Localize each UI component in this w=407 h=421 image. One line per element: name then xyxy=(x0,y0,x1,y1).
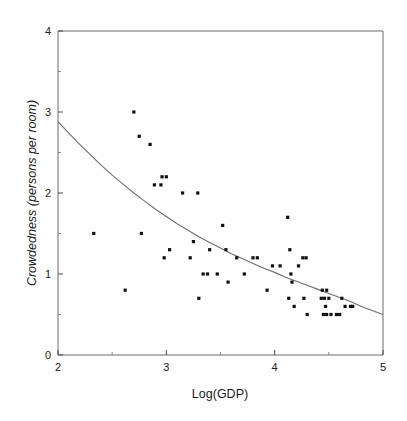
data-point xyxy=(235,256,238,259)
fit-curve xyxy=(58,122,383,315)
data-point xyxy=(197,297,200,300)
data-point xyxy=(290,281,293,284)
data-point xyxy=(216,272,219,275)
data-point xyxy=(196,191,199,194)
y-tick-label: 0 xyxy=(45,349,51,361)
y-tick-label: 3 xyxy=(45,106,51,118)
data-point xyxy=(278,264,281,267)
y-tick-labels: 01234 xyxy=(45,25,51,361)
data-point xyxy=(329,313,332,316)
data-point xyxy=(202,272,205,275)
data-point xyxy=(340,297,343,300)
data-point xyxy=(325,313,328,316)
x-tick-label: 5 xyxy=(380,361,386,373)
y-tick-label: 1 xyxy=(45,268,51,280)
data-point xyxy=(343,305,346,308)
x-axis-title: Log(GDP) xyxy=(192,387,248,401)
x-tick-label: 4 xyxy=(272,361,278,373)
axis-ticks xyxy=(58,31,383,355)
data-point xyxy=(92,232,95,235)
plot-frame xyxy=(58,31,383,355)
data-point xyxy=(301,256,304,259)
x-tick-label: 3 xyxy=(163,361,169,373)
data-point xyxy=(224,248,227,251)
data-point xyxy=(271,264,274,267)
data-point xyxy=(192,240,195,243)
data-point xyxy=(297,264,300,267)
data-point xyxy=(140,232,143,235)
data-point xyxy=(322,313,325,316)
data-point xyxy=(293,305,296,308)
data-point xyxy=(288,248,291,251)
x-tick-label: 2 xyxy=(55,361,61,373)
data-point xyxy=(302,297,305,300)
data-point xyxy=(181,191,184,194)
data-point xyxy=(327,297,330,300)
data-point xyxy=(153,183,156,186)
y-tick-label: 2 xyxy=(45,187,51,199)
data-points xyxy=(92,110,354,316)
data-point xyxy=(351,305,354,308)
data-point xyxy=(306,313,309,316)
data-point xyxy=(132,110,135,113)
data-point xyxy=(287,297,290,300)
data-point xyxy=(148,143,151,146)
data-point xyxy=(189,256,192,259)
data-point xyxy=(304,256,307,259)
data-point xyxy=(321,289,324,292)
data-point xyxy=(256,256,259,259)
data-point xyxy=(206,272,209,275)
data-point xyxy=(138,135,141,138)
data-point xyxy=(338,313,341,316)
data-point xyxy=(286,216,289,219)
data-point xyxy=(163,256,166,259)
x-tick-labels: 2345 xyxy=(55,361,386,373)
data-point xyxy=(124,289,127,292)
data-point xyxy=(159,183,162,186)
data-point xyxy=(160,175,163,178)
data-point xyxy=(208,248,211,251)
y-tick-label: 4 xyxy=(45,25,51,37)
data-point xyxy=(324,305,327,308)
data-point xyxy=(168,248,171,251)
data-point xyxy=(325,289,328,292)
data-point xyxy=(165,175,168,178)
chart-figure: 2345 01234 Log(GDP) Crowdedness (persons… xyxy=(0,0,407,421)
data-point xyxy=(289,272,292,275)
data-point xyxy=(265,289,268,292)
y-axis-title: Crowdedness (persons per room) xyxy=(25,100,39,286)
data-point xyxy=(243,272,246,275)
scatter-plot-svg: 2345 01234 Log(GDP) Crowdedness (persons… xyxy=(0,0,407,421)
data-point xyxy=(226,281,229,284)
data-point xyxy=(251,256,254,259)
data-point xyxy=(320,297,323,300)
fit-curve-path xyxy=(58,122,383,315)
data-point xyxy=(335,313,338,316)
data-point xyxy=(323,297,326,300)
data-point xyxy=(221,224,224,227)
